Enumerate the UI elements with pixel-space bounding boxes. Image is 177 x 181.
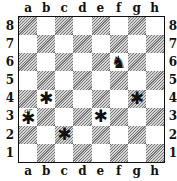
file-label: g	[128, 164, 146, 178]
file-label: c	[55, 164, 73, 178]
square-a2	[19, 126, 37, 144]
square-a4	[19, 90, 37, 108]
file-label: e	[91, 1, 109, 15]
square-a1	[19, 144, 37, 162]
square-c2: ✱	[55, 126, 73, 144]
square-e2	[92, 126, 110, 144]
square-f7	[110, 35, 128, 53]
square-b2	[37, 126, 55, 144]
square-e6	[92, 53, 110, 71]
square-b4: ✱	[37, 90, 55, 108]
square-c7	[55, 35, 73, 53]
square-c6	[55, 53, 73, 71]
square-d2	[73, 126, 91, 144]
square-d8	[73, 17, 91, 35]
square-d3	[73, 108, 91, 126]
square-e8	[92, 17, 110, 35]
rank-label: 4	[3, 89, 17, 107]
square-f4	[110, 90, 128, 108]
file-labels-bottom: a b c d e f g h	[19, 164, 164, 178]
square-f8	[110, 17, 128, 35]
square-f5	[110, 71, 128, 89]
black-knight-icon: ♞	[110, 53, 128, 71]
rank-label: 1	[166, 144, 177, 162]
square-f1	[110, 144, 128, 162]
chess-board: ♞✱✱or✱✱✱	[18, 16, 165, 163]
square-g2	[128, 126, 146, 144]
square-f3	[110, 108, 128, 126]
rank-label: 6	[166, 53, 177, 71]
square-g3	[128, 108, 146, 126]
file-label: b	[37, 164, 55, 178]
rank-label: 3	[3, 107, 17, 125]
asterisk-marker-icon: ✱	[19, 112, 37, 126]
square-c8	[55, 17, 73, 35]
square-e4	[92, 90, 110, 108]
file-label: h	[146, 164, 164, 178]
square-d7	[73, 35, 91, 53]
square-a7	[19, 35, 37, 53]
square-c3	[55, 108, 73, 126]
file-label: f	[109, 164, 127, 178]
file-label: d	[73, 164, 91, 178]
asterisk-marker-icon: ✱	[92, 108, 110, 126]
square-d4	[73, 90, 91, 108]
square-h6	[146, 53, 164, 71]
file-label: a	[19, 1, 37, 15]
square-f2	[110, 126, 128, 144]
square-h8	[146, 17, 164, 35]
square-d1	[73, 144, 91, 162]
square-c5	[55, 71, 73, 89]
square-h1	[146, 144, 164, 162]
square-e7	[92, 35, 110, 53]
square-g5	[128, 71, 146, 89]
square-a8	[19, 17, 37, 35]
square-b8	[37, 17, 55, 35]
square-h3	[146, 108, 164, 126]
square-b3	[37, 108, 55, 126]
rank-label: 5	[166, 71, 177, 89]
square-h2	[146, 126, 164, 144]
file-label: e	[91, 164, 109, 178]
rank-label: 8	[3, 17, 17, 35]
square-h5	[146, 71, 164, 89]
square-b5	[37, 71, 55, 89]
rank-label: 3	[166, 107, 177, 125]
file-label: f	[109, 1, 127, 15]
rank-labels-left: 8 7 6 5 4 3 2 1	[3, 17, 17, 162]
square-h4	[146, 90, 164, 108]
square-d5	[73, 71, 91, 89]
square-e3: ✱	[92, 108, 110, 126]
square-b6	[37, 53, 55, 71]
rank-label: 7	[166, 35, 177, 53]
square-a5	[19, 71, 37, 89]
rank-label: 2	[3, 126, 17, 144]
asterisk-marker-icon: ✱	[128, 90, 146, 108]
rank-label: 6	[3, 53, 17, 71]
square-g1	[128, 144, 146, 162]
square-g8	[128, 17, 146, 35]
square-d6	[73, 53, 91, 71]
square-b7	[37, 35, 55, 53]
square-a6	[19, 53, 37, 71]
square-c1	[55, 144, 73, 162]
file-label: b	[37, 1, 55, 15]
square-a3: or✱	[19, 108, 37, 126]
square-f6: ♞	[110, 53, 128, 71]
square-e5	[92, 71, 110, 89]
file-label: h	[146, 1, 164, 15]
rank-labels-right: 8 7 6 5 4 3 2 1	[166, 17, 177, 162]
rank-label: 7	[3, 35, 17, 53]
file-label: a	[19, 164, 37, 178]
square-c4	[55, 90, 73, 108]
file-label: g	[128, 1, 146, 15]
file-labels-top: a b c d e f g h	[19, 1, 164, 15]
square-g4: ✱	[128, 90, 146, 108]
rank-label: 8	[166, 17, 177, 35]
square-b1	[37, 144, 55, 162]
rank-label: 5	[3, 71, 17, 89]
file-label: c	[55, 1, 73, 15]
asterisk-marker-icon: ✱	[55, 126, 73, 144]
rank-label: 2	[166, 126, 177, 144]
square-e1	[92, 144, 110, 162]
